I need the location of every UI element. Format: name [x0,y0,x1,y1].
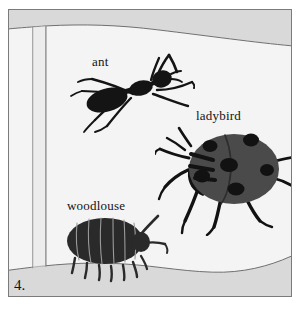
ladybird-spot [203,140,218,152]
woodlouse-icon [57,210,171,286]
spine-shade [33,26,46,268]
ladybird-spot [228,183,245,196]
figure-number: 4. [14,278,25,293]
label-ladybird: ladybird [196,109,241,122]
ladybird-spot [243,134,259,147]
label-woodlouse: woodlouse [67,199,125,212]
ladybird-spot [260,164,274,176]
illustration-panel: ant ladybird woodlouse 4. [8,9,292,297]
label-ant: ant [92,55,108,68]
ladybird-spot [220,158,238,172]
ladybird-icon [155,120,292,236]
